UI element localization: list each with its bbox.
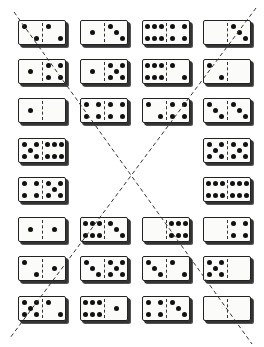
pip [120, 36, 125, 41]
pip [22, 260, 27, 265]
pip [58, 36, 63, 41]
pip [231, 233, 236, 238]
domino-6-4 [142, 20, 190, 45]
pip [114, 227, 119, 232]
domino-divider [104, 299, 105, 318]
domino-half-1 [19, 218, 42, 241]
pip [145, 24, 150, 29]
pip [207, 63, 212, 68]
pip [237, 30, 242, 35]
pip [34, 312, 39, 317]
domino-half-6 [43, 139, 66, 162]
pip [58, 193, 63, 198]
pip [169, 233, 174, 238]
domino-half-1 [43, 257, 66, 280]
domino-half-2 [204, 60, 227, 83]
domino-half-6 [81, 218, 104, 241]
pip [170, 36, 175, 41]
pip [182, 114, 187, 119]
domino-half-6 [143, 21, 166, 44]
pip [146, 102, 151, 107]
pip [22, 300, 27, 305]
pip [182, 312, 187, 317]
domino-5-0 [203, 256, 251, 281]
pip [46, 300, 51, 305]
domino-divider [104, 259, 105, 278]
pip [120, 75, 125, 80]
pip [145, 75, 150, 80]
pip [120, 114, 125, 119]
pip [108, 102, 113, 107]
domino-divider [42, 299, 43, 318]
domino-half-0 [228, 60, 251, 83]
pip [244, 193, 249, 198]
pip [207, 154, 212, 159]
domino-6-2 [142, 59, 190, 84]
pip [237, 181, 242, 186]
pip [97, 312, 102, 317]
pip [58, 75, 63, 80]
pip [90, 30, 95, 35]
pip [145, 63, 150, 68]
domino-half-0 [204, 297, 227, 320]
pip [231, 24, 236, 29]
domino-half-5 [228, 139, 251, 162]
pip [83, 300, 88, 305]
pip [243, 233, 248, 238]
domino-half-3 [143, 257, 166, 280]
domino-half-2 [143, 99, 166, 122]
domino-half-5 [105, 257, 128, 280]
pip [46, 181, 51, 186]
pip [59, 142, 64, 147]
pip [58, 181, 63, 186]
pip [243, 142, 248, 147]
domino-divider [42, 23, 43, 42]
pip [170, 114, 175, 119]
pip [213, 108, 218, 113]
pip [207, 272, 212, 277]
pip [46, 24, 51, 29]
pip [231, 154, 236, 159]
pip [207, 102, 212, 107]
pip [97, 221, 102, 226]
pip [158, 114, 163, 119]
domino-half-1 [105, 297, 128, 320]
domino-half-4 [167, 21, 190, 44]
pip [170, 102, 175, 107]
domino-2-2 [18, 20, 66, 45]
domino-half-2 [19, 21, 42, 44]
pip [170, 300, 175, 305]
domino-half-5 [204, 139, 227, 162]
pip [230, 193, 235, 198]
domino-half-4 [143, 297, 166, 320]
pip [52, 187, 57, 192]
domino-divider [227, 220, 228, 239]
pip [170, 24, 175, 29]
domino-0-4 [203, 217, 251, 242]
pip [34, 36, 39, 41]
domino-half-6 [204, 178, 227, 201]
domino-divider [227, 259, 228, 278]
pip [152, 63, 157, 68]
domino-divider [227, 101, 228, 120]
pip [170, 260, 175, 265]
domino-half-3 [81, 257, 104, 280]
domino-half-2 [19, 257, 42, 280]
domino-half-4 [105, 99, 128, 122]
pip [146, 260, 151, 265]
pip [231, 142, 236, 147]
domino-half-4 [81, 99, 104, 122]
domino-divider [104, 62, 105, 81]
pip [28, 227, 33, 232]
pip [90, 69, 95, 74]
domino-divider [42, 220, 43, 239]
domino-half-2 [167, 257, 190, 280]
pip [52, 266, 57, 271]
pip [45, 154, 50, 159]
pip [114, 30, 119, 35]
pip [22, 142, 27, 147]
pip [207, 260, 212, 265]
pip [108, 114, 113, 119]
pip [206, 193, 211, 198]
pip [108, 272, 113, 277]
